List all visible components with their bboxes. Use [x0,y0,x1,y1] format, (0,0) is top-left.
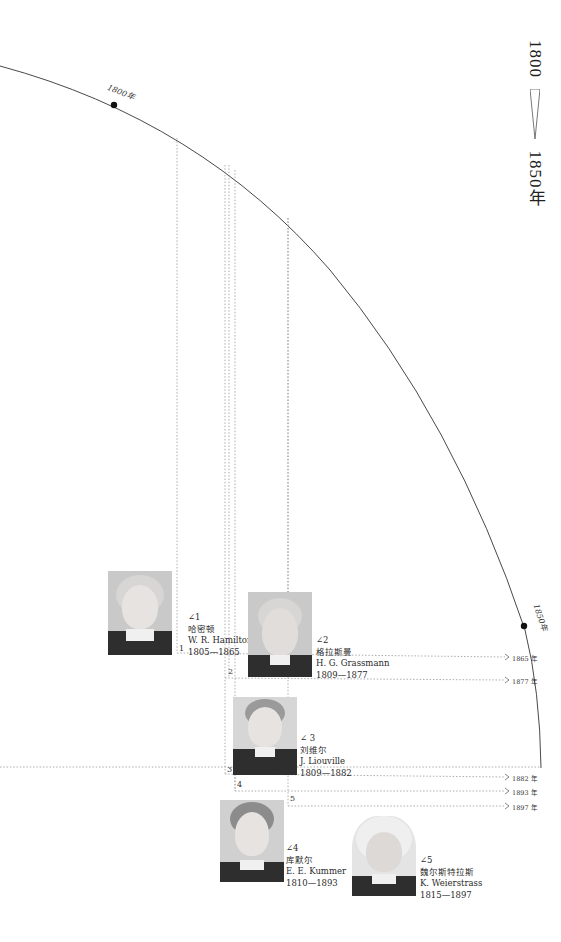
index-5: 5 [290,794,295,803]
portrait-grassmann [248,592,312,677]
info-liouville: ∠ 3 刘维尔 J. Liouville 1809—1882 [300,733,352,779]
angle-label: ∠4 [286,843,346,855]
end-year-1893: 1893 年 [512,787,538,797]
index-1: 1 [179,644,184,653]
index-3: 3 [227,765,232,774]
name-en: H. G. Grassmann [316,658,389,670]
name-cn: 格拉斯曼 [316,647,389,659]
life-years: 1809—1882 [300,768,352,780]
name-en: E. E. Kummer [286,866,346,878]
index-2: 2 [228,667,233,676]
info-grassmann: ∠2 格拉斯曼 H. G. Grassmann 1809—1877 [316,635,389,681]
wedge-icon [530,89,540,139]
portrait-hamilton [108,571,172,655]
name-cn: 哈密顿 [188,624,252,636]
end-year-1865: 1865 年 [512,653,538,663]
period-start: 1800 [526,40,545,78]
life-years: 1809—1877 [316,670,389,682]
name-cn: 魏尔斯特拉斯 [420,867,482,879]
period-title: 1800 1850年 [523,40,548,207]
name-en: W. R. Hamilton [188,635,252,647]
end-year-1882: 1882 年 [512,773,538,783]
life-years: 1810—1893 [286,878,346,890]
info-weierstrass: ∠5 魏尔斯特拉斯 K. Weierstrass 1815—1897 [420,855,482,901]
portrait-weierstrass [352,816,416,896]
name-en: J. Liouville [300,756,352,768]
marker-1800 [111,102,117,108]
end-year-1877: 1877 年 [512,676,538,686]
info-kummer: ∠4 库默尔 E. E. Kummer 1810—1893 [286,843,346,889]
portrait-kummer [220,800,284,882]
name-en: K. Weierstrass [420,878,482,890]
angle-label: ∠1 [188,612,252,624]
info-hamilton: ∠1 哈密顿 W. R. Hamilton 1805—1865 [188,612,252,658]
period-end: 1850年 [526,151,545,207]
name-cn: 刘维尔 [300,745,352,757]
angle-label: ∠2 [316,635,389,647]
angle-label: ∠5 [420,855,482,867]
name-cn: 库默尔 [286,855,346,867]
life-years: 1805—1865 [188,647,252,659]
angle-label: ∠ 3 [300,733,352,745]
end-year-1897: 1897 年 [512,802,538,812]
marker-1850 [521,623,527,629]
portrait-liouville [233,697,297,775]
index-4: 4 [237,780,242,789]
life-years: 1815—1897 [420,890,482,902]
